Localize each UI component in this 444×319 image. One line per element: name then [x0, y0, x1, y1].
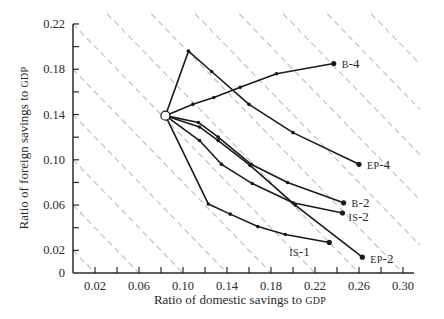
iso-lines: [73, 14, 420, 273]
y-tick-label: 0.02: [43, 243, 65, 257]
iso-line: [195, 14, 420, 245]
data-point: [247, 103, 251, 107]
x-tick-label: 0.30: [392, 279, 414, 293]
data-point: [275, 72, 279, 76]
data-point: [197, 121, 201, 125]
iso-line: [73, 24, 315, 273]
series-line: [165, 116, 329, 243]
data-point: [191, 103, 195, 107]
y-axis-title: Ratio of foreign savings to GDP: [16, 66, 31, 229]
y-tick-label: 0.06: [43, 198, 65, 212]
data-point: [216, 139, 220, 143]
series-is-1: IS-1: [165, 116, 332, 260]
data-point: [284, 233, 288, 237]
iso-line: [73, 69, 271, 273]
x-tick-label: 0.26: [348, 279, 370, 293]
y-tick-label: 0.10: [43, 153, 65, 167]
series-line: [165, 116, 342, 213]
data-point: [251, 182, 255, 186]
data-point: [238, 86, 242, 90]
series-label: B-4: [342, 56, 360, 71]
data-point: [341, 200, 346, 205]
data-point: [229, 212, 233, 216]
data-point: [198, 139, 202, 143]
start-point-marker: [161, 111, 170, 120]
x-tick-label: 0.14: [216, 279, 239, 293]
data-point: [198, 125, 202, 129]
series-label: B-2: [352, 195, 370, 210]
data-point: [210, 70, 214, 74]
series-line: [165, 116, 343, 203]
series-ep-2: EP-2: [165, 116, 393, 267]
data-point: [340, 210, 345, 215]
iso-line: [73, 160, 183, 273]
series-line: [165, 64, 333, 116]
chart: 0.020.060.100.140.180.220.260.30 00.020.…: [0, 0, 444, 319]
x-ticks: 0.020.060.100.140.180.220.260.30: [84, 267, 414, 293]
data-point: [207, 202, 211, 206]
x-tick-label: 0.02: [84, 279, 106, 293]
data-point: [327, 240, 332, 245]
series-b-2: B-2: [165, 116, 369, 210]
y-tick-label: 0.14: [43, 108, 66, 122]
y-tick-label: 0.22: [43, 17, 65, 31]
data-point: [291, 201, 295, 205]
x-tick-label: 0.18: [260, 279, 282, 293]
x-tick-label: 0.06: [128, 279, 150, 293]
data-point: [220, 163, 224, 167]
data-point: [356, 162, 361, 167]
y-tick-label: 0: [59, 266, 65, 280]
data-point: [360, 255, 365, 260]
data-point: [212, 96, 216, 100]
x-axis-title: Ratio of domestic savings to GDP: [154, 292, 326, 307]
data-point: [248, 164, 252, 168]
series-is-2: IS-2: [165, 116, 368, 224]
data-point: [286, 181, 290, 185]
x-tick-label: 0.22: [304, 279, 326, 293]
iso-line: [371, 14, 420, 64]
series-b-4: B-4: [165, 56, 360, 116]
data-point: [256, 225, 260, 229]
y-tick-label: 0.18: [43, 62, 65, 76]
data-point: [291, 131, 295, 135]
series-label: EP-4: [367, 157, 391, 172]
series-label: IS-1: [289, 244, 309, 259]
iso-line: [73, 205, 139, 273]
series-label: IS-2: [349, 209, 369, 224]
x-tick-label: 0.10: [172, 279, 194, 293]
series-label: EP-2: [370, 251, 393, 266]
data-point: [187, 49, 191, 53]
data-point: [331, 61, 336, 66]
iso-line: [73, 250, 95, 273]
data-point: [216, 135, 220, 139]
iso-line: [283, 14, 420, 155]
